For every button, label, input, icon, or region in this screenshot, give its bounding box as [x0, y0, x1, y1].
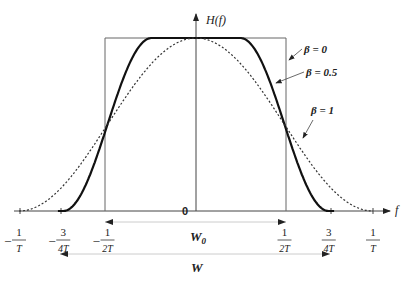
svg-text:–: – [93, 233, 101, 247]
beta-1-label: β = 1 [310, 104, 334, 116]
svg-text:T: T [16, 243, 23, 254]
svg-text:2T: 2T [102, 243, 114, 254]
beta-0-pointer [289, 49, 302, 60]
svg-text:2T: 2T [279, 243, 291, 254]
x-tick-label: 1T [366, 226, 380, 254]
svg-text:4T: 4T [58, 243, 70, 254]
raised-cosine-plot: H(f) f 0 β = 0 β = 0.5 β = 1 –1T–34T–12T… [0, 0, 410, 281]
svg-text:3: 3 [326, 226, 332, 238]
origin-label: 0 [182, 205, 188, 217]
x-tick-label: –12T [93, 226, 115, 254]
svg-text:1: 1 [282, 226, 288, 238]
x-tick-label: 34T [322, 226, 336, 254]
x-tick-label: –1T [4, 226, 26, 254]
beta-0.5-pointer [276, 72, 304, 83]
svg-text:–: – [48, 233, 56, 247]
w0-label: W0 [190, 229, 207, 246]
beta-0-label: β = 0 [303, 43, 327, 55]
x-tick-label: 12T [278, 226, 292, 254]
svg-text:T: T [370, 243, 377, 254]
svg-text:1: 1 [370, 226, 376, 238]
beta-1-pointer [303, 120, 313, 138]
x-axis-label: f [395, 203, 400, 217]
svg-text:1: 1 [105, 226, 111, 238]
x-tick-label: –34T [48, 226, 70, 254]
beta-0.5-label: β = 0.5 [305, 66, 338, 78]
svg-text:3: 3 [61, 226, 67, 238]
svg-text:–: – [4, 233, 12, 247]
y-axis-label: H(f) [205, 13, 226, 27]
w-label: W [191, 260, 204, 275]
svg-text:1: 1 [16, 226, 22, 238]
